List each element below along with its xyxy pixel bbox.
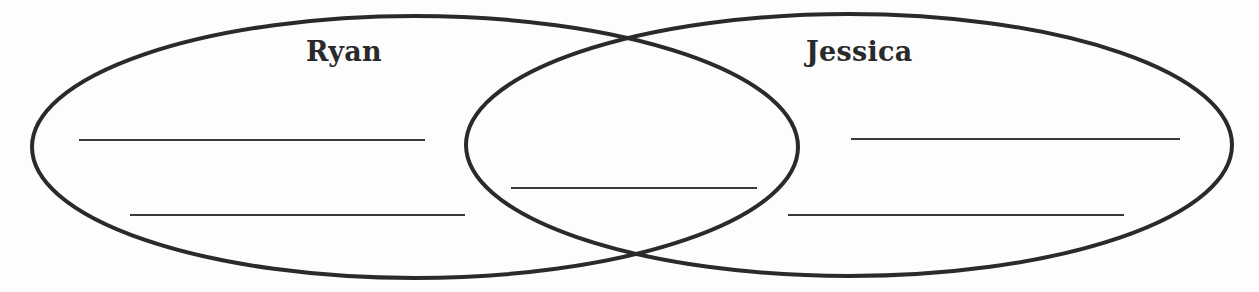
overlap-answer-line[interactable] xyxy=(511,187,757,189)
ryan-label: Ryan xyxy=(306,36,382,67)
venn-diagram: Ryan Jessica xyxy=(0,0,1259,292)
ryan-ellipse xyxy=(32,16,798,278)
venn-shapes xyxy=(0,0,1259,292)
jessica-label: Jessica xyxy=(806,36,913,67)
jessica-answer-line-2[interactable] xyxy=(788,214,1124,216)
ryan-answer-line-2[interactable] xyxy=(130,214,465,216)
jessica-answer-line-1[interactable] xyxy=(851,138,1180,140)
ryan-answer-line-1[interactable] xyxy=(79,139,425,141)
